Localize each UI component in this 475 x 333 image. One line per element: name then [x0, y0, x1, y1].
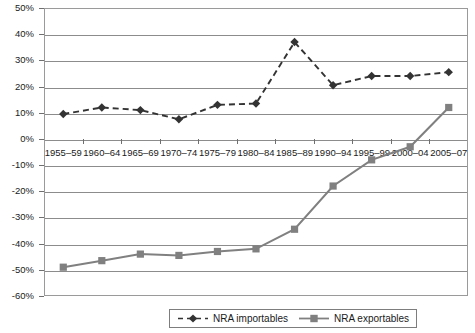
gridline [45, 88, 467, 89]
y-tick-label: -10% [12, 160, 34, 170]
x-tick-mark [83, 139, 84, 144]
x-tick-label: 2000–04 [391, 147, 430, 159]
x-tick-mark [198, 139, 199, 144]
x-tick-label: 1975–79 [198, 147, 237, 159]
y-tick-label: -40% [12, 239, 34, 249]
legend-label-nra-exportables: NRA exportables [334, 313, 409, 324]
y-tick-label: 30% [15, 55, 34, 65]
x-tick-label: 1965–69 [121, 147, 160, 159]
legend-item-nra-importables: NRA importables [177, 313, 288, 324]
y-tick-label: -30% [12, 212, 34, 222]
y-tick-label: 10% [15, 108, 34, 118]
y-tick-mark [39, 113, 44, 114]
chart-container: 50%40%30%20%10%0%-10%-20%-30%-40%-50%-60… [0, 0, 475, 333]
x-tick-mark [391, 139, 392, 144]
y-tick-label: -50% [12, 265, 34, 275]
y-tick-label: 0% [20, 134, 34, 144]
y-tick-label: 40% [15, 29, 34, 39]
gridline [45, 245, 467, 246]
x-tick-mark [275, 139, 276, 144]
x-tick-label: 1995–99 [352, 147, 391, 159]
gridline [45, 61, 467, 62]
y-tick-mark [39, 87, 44, 88]
y-tick-label: 50% [15, 3, 34, 13]
y-tick-mark [39, 139, 44, 140]
x-tick-label: 1970–74 [160, 147, 199, 159]
gridline [45, 166, 467, 167]
x-tick-mark [314, 139, 315, 144]
x-tick-label: 1955–59 [44, 147, 83, 159]
legend-item-nra-exportables: NRA exportables [298, 313, 409, 324]
x-tick-mark [121, 139, 122, 144]
x-tick-label: 2005–07 [429, 147, 468, 159]
gridline [45, 35, 467, 36]
y-tick-mark [39, 270, 44, 271]
y-tick-mark [39, 165, 44, 166]
y-tick-mark [39, 34, 44, 35]
solid-square-line-icon [298, 313, 330, 324]
gridline [45, 192, 467, 193]
x-tick-mark [429, 139, 430, 144]
gridline [45, 114, 467, 115]
y-tick-label: -20% [12, 186, 34, 196]
y-tick-mark [39, 244, 44, 245]
y-axis: 50%40%30%20%10%0%-10%-20%-30%-40%-50%-60… [0, 0, 40, 333]
x-tick-label: 1985–89 [275, 147, 314, 159]
x-tick-label: 1990–94 [314, 147, 353, 159]
y-tick-mark [39, 217, 44, 218]
y-tick-label: 20% [15, 82, 34, 92]
y-tick-mark [39, 296, 44, 297]
y-tick-mark [39, 8, 44, 9]
x-axis: 1955–591960–641965–691970–741975–791980–… [44, 147, 468, 161]
chart-legend: NRA importables NRA exportables [169, 309, 417, 328]
y-tick-label: -60% [12, 291, 34, 301]
dashed-diamond-line-icon [177, 313, 209, 324]
gridline [45, 140, 467, 141]
x-tick-mark [237, 139, 238, 144]
y-tick-mark [39, 191, 44, 192]
y-tick-mark [39, 60, 44, 61]
x-tick-label: 1980–84 [237, 147, 276, 159]
gridline [45, 218, 467, 219]
x-tick-mark [160, 139, 161, 144]
gridline [45, 271, 467, 272]
x-tick-label: 1960–64 [83, 147, 122, 159]
legend-label-nra-importables: NRA importables [213, 313, 288, 324]
x-tick-mark [352, 139, 353, 144]
